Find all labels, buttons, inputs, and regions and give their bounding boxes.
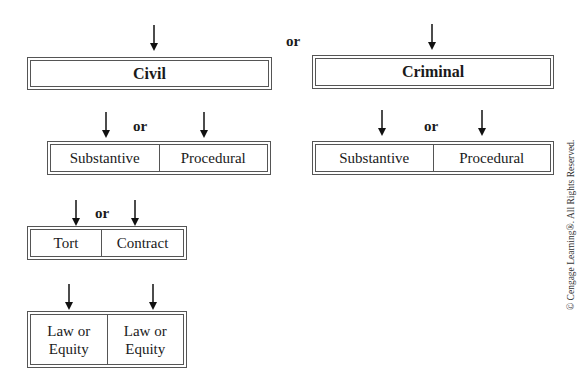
- or-connector: or: [95, 205, 109, 222]
- arrow-down-icon: [477, 110, 487, 136]
- arrow-down-icon: [64, 284, 74, 310]
- copyright-notice: © Cengage Learning®. All Rights Reserved…: [566, 140, 576, 310]
- arrow-down-icon: [71, 200, 81, 226]
- arrow-down-icon: [199, 112, 209, 138]
- law-equity-box: Law or Equity Law or Equity: [27, 311, 187, 368]
- or-connector: or: [424, 118, 438, 135]
- procedural-cell: Procedural: [433, 145, 551, 171]
- arrow-down-icon: [130, 200, 140, 226]
- arrow-down-icon: [427, 24, 437, 50]
- civil-label: Civil: [31, 61, 268, 86]
- substantive-cell: Substantive: [51, 145, 159, 171]
- criminal-substantive-procedural-box: Substantive Procedural: [312, 141, 554, 175]
- arrow-down-icon: [148, 284, 158, 310]
- criminal-label: Criminal: [316, 59, 550, 85]
- arrow-down-icon: [377, 110, 387, 136]
- or-connector: or: [133, 118, 147, 135]
- arrow-down-icon: [149, 25, 159, 51]
- procedural-cell: Procedural: [159, 145, 268, 171]
- civil-box: Civil: [27, 57, 272, 90]
- substantive-cell: Substantive: [316, 145, 433, 171]
- tort-contract-box: Tort Contract: [27, 226, 187, 260]
- arrow-down-icon: [101, 112, 111, 138]
- criminal-box: Criminal: [312, 55, 554, 89]
- civil-substantive-procedural-box: Substantive Procedural: [47, 141, 271, 175]
- tort-cell: Tort: [31, 230, 101, 256]
- or-connector: or: [286, 33, 300, 50]
- contract-cell: Contract: [101, 230, 183, 256]
- law-or-equity-cell: Law or Equity: [107, 315, 184, 364]
- law-or-equity-cell: Law or Equity: [31, 315, 107, 364]
